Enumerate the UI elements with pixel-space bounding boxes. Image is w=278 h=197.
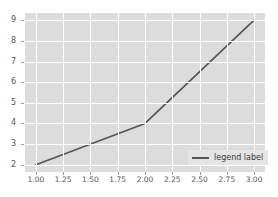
- x-tick-label: 3.00: [239, 176, 269, 184]
- y-tick-label: 7: [2, 58, 16, 66]
- y-tick-label: 2: [2, 161, 16, 169]
- x-gridline: [90, 13, 91, 172]
- x-gridline: [254, 13, 255, 172]
- x-tick-label: 1.25: [48, 176, 78, 184]
- legend-line-swatch: [192, 157, 209, 159]
- x-tick-label: 2.50: [185, 176, 215, 184]
- y-gridline: [25, 123, 265, 124]
- y-tick-mark: [21, 41, 24, 42]
- x-tick-label: 1.00: [21, 176, 51, 184]
- y-gridline: [25, 41, 265, 42]
- y-tick-mark: [21, 20, 24, 21]
- x-gridline: [172, 13, 173, 172]
- y-gridline: [25, 103, 265, 104]
- y-tick-label: 5: [2, 99, 16, 107]
- y-tick-label: 9: [2, 16, 16, 24]
- x-gridline: [145, 13, 146, 172]
- y-tick-label: 4: [2, 119, 16, 127]
- x-gridline: [227, 13, 228, 172]
- x-tick-label: 1.75: [103, 176, 133, 184]
- x-tick-label: 2.00: [130, 176, 160, 184]
- chart-legend: legend label: [188, 150, 268, 165]
- y-tick-mark: [21, 103, 24, 104]
- y-gridline: [25, 62, 265, 63]
- y-tick-label: 3: [2, 140, 16, 148]
- y-tick-mark: [21, 165, 24, 166]
- y-tick-mark: [21, 62, 24, 63]
- x-gridline: [118, 13, 119, 172]
- x-gridline: [200, 13, 201, 172]
- plot-area: [25, 13, 265, 172]
- chart-figure: legend label 1.001.251.501.752.002.252.5…: [0, 0, 278, 197]
- x-tick-label: 2.75: [212, 176, 242, 184]
- x-gridline: [63, 13, 64, 172]
- y-tick-label: 6: [2, 78, 16, 86]
- y-gridline: [25, 144, 265, 145]
- legend-label: legend label: [214, 153, 263, 162]
- x-tick-label: 2.25: [157, 176, 187, 184]
- y-tick-mark: [21, 82, 24, 83]
- y-gridline: [25, 20, 265, 21]
- x-gridline: [36, 13, 37, 172]
- y-tick-mark: [21, 123, 24, 124]
- y-tick-label: 8: [2, 37, 16, 45]
- y-tick-mark: [21, 144, 24, 145]
- y-gridline: [25, 82, 265, 83]
- x-tick-label: 1.50: [75, 176, 105, 184]
